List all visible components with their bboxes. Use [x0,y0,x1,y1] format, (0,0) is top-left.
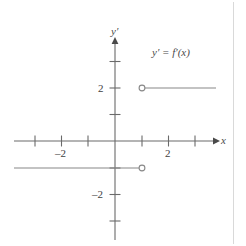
y-axis-label: y′ [111,26,118,37]
equation-label: y′ = f′(x) [152,47,190,58]
x-tick-label-2: 2 [165,148,171,159]
page-edge-divider [233,2,234,244]
x-axis-arrowhead [213,138,220,145]
plot-canvas [0,0,246,246]
open-point-upper [139,85,145,91]
x-axis-label: x [221,135,226,146]
y-tick-label-neg2: –2 [92,189,103,200]
y-tick-label-2: 2 [98,83,104,94]
open-point-lower [139,165,145,171]
y-axis-arrowhead [112,37,119,44]
derivative-graph-figure: y′ x y′ = f′(x) 2 –2 2 –2 [0,0,246,246]
x-tick-label-neg2: –2 [55,148,66,159]
